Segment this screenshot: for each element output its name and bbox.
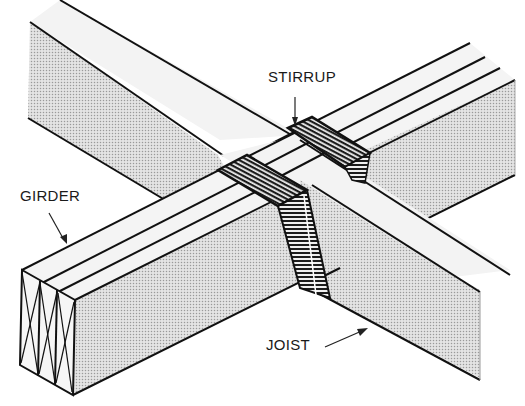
stirrup-arrow — [292, 97, 298, 126]
stirrup-label: STIRRUP — [268, 68, 336, 85]
girder-label: GIRDER — [20, 187, 80, 204]
girder-arrow — [49, 213, 67, 244]
joist-arrow — [325, 328, 368, 347]
joist-label: JOIST — [266, 336, 310, 353]
